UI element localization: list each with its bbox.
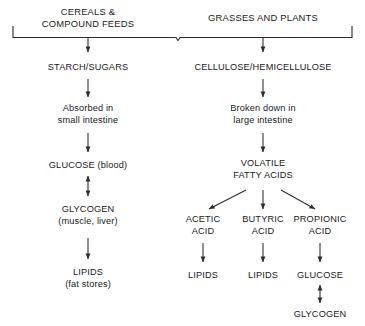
source-left-line1: CEREALS & bbox=[42, 6, 134, 18]
node-acetic-product-line1: LIPIDS bbox=[188, 270, 218, 282]
node-propionic-acid-line2: ACID bbox=[294, 226, 347, 238]
node-absorbed-line2: small intestine bbox=[58, 115, 118, 127]
node-acetic-acid-line2: ACID bbox=[186, 226, 221, 238]
source-right: GRASSES AND PLANTS bbox=[208, 12, 318, 24]
node-butyric-acid-line1: BUTYRIC bbox=[242, 214, 283, 226]
source-left-line2: COMPOUND FEEDS bbox=[42, 18, 134, 30]
node-propionic-product-line1: GLUCOSE bbox=[297, 270, 343, 282]
node-glucose-blood: GLUCOSE (blood) bbox=[49, 160, 127, 172]
source-left: CEREALS & COMPOUND FEEDS bbox=[42, 6, 134, 29]
node-glucose-blood-line1: GLUCOSE (blood) bbox=[49, 160, 127, 172]
node-butyric-acid-line2: ACID bbox=[242, 226, 283, 238]
source-right-line1: GRASSES AND PLANTS bbox=[208, 12, 318, 24]
node-glycogen-line2: (muscle, liver) bbox=[58, 216, 117, 228]
node-acetic-product-lipids: LIPIDS bbox=[188, 270, 218, 282]
node-vfa-line2: FATTY ACIDS bbox=[233, 170, 293, 182]
node-acetic-acid: ACETIC ACID bbox=[186, 214, 221, 237]
node-lipids-fat-stores: LIPIDS (fat stores) bbox=[65, 267, 111, 290]
node-cellulose-hemicellulose: CELLULOSE/HEMICELLULOSE bbox=[194, 62, 331, 74]
node-brokendown-line2: large intestine bbox=[230, 115, 295, 127]
node-butyric-acid: BUTYRIC ACID bbox=[242, 214, 283, 237]
node-cellulose-hemicellulose-line1: CELLULOSE/HEMICELLULOSE bbox=[194, 62, 331, 74]
arrow-vfa-to-acetic bbox=[209, 190, 246, 209]
node-starch-sugars: STARCH/SUGARS bbox=[48, 62, 128, 74]
node-glycogen-line1: GLYCOGEN bbox=[58, 204, 117, 216]
node-volatile-fatty-acids: VOLATILE FATTY ACIDS bbox=[233, 158, 293, 181]
node-broken-down-large-intestine: Broken down in large intestine bbox=[230, 103, 295, 126]
node-propionic-end-glycogen: GLYCOGEN bbox=[294, 309, 347, 321]
digestion-flowchart: CEREALS & COMPOUND FEEDS GRASSES AND PLA… bbox=[0, 0, 365, 326]
node-acetic-acid-line1: ACETIC bbox=[186, 214, 221, 226]
node-starch-sugars-line1: STARCH/SUGARS bbox=[48, 62, 128, 74]
node-butyric-product-line1: LIPIDS bbox=[248, 270, 278, 282]
node-absorbed-small-intestine: Absorbed in small intestine bbox=[58, 103, 118, 126]
node-propionic-acid: PROPIONIC ACID bbox=[294, 214, 347, 237]
arrow-vfa-to-propionic bbox=[281, 190, 315, 209]
node-brokendown-line1: Broken down in bbox=[230, 103, 295, 115]
node-propionic-product-glucose: GLUCOSE bbox=[297, 270, 343, 282]
node-lipids-line1: LIPIDS bbox=[65, 267, 111, 279]
node-propionic-acid-line1: PROPIONIC bbox=[294, 214, 347, 226]
node-butyric-product-lipids: LIPIDS bbox=[248, 270, 278, 282]
node-propionic-end-line1: GLYCOGEN bbox=[294, 309, 347, 321]
node-absorbed-line1: Absorbed in bbox=[58, 103, 118, 115]
node-vfa-line1: VOLATILE bbox=[233, 158, 293, 170]
node-glycogen-muscle-liver: GLYCOGEN (muscle, liver) bbox=[58, 204, 117, 227]
node-lipids-line2: (fat stores) bbox=[65, 279, 111, 291]
